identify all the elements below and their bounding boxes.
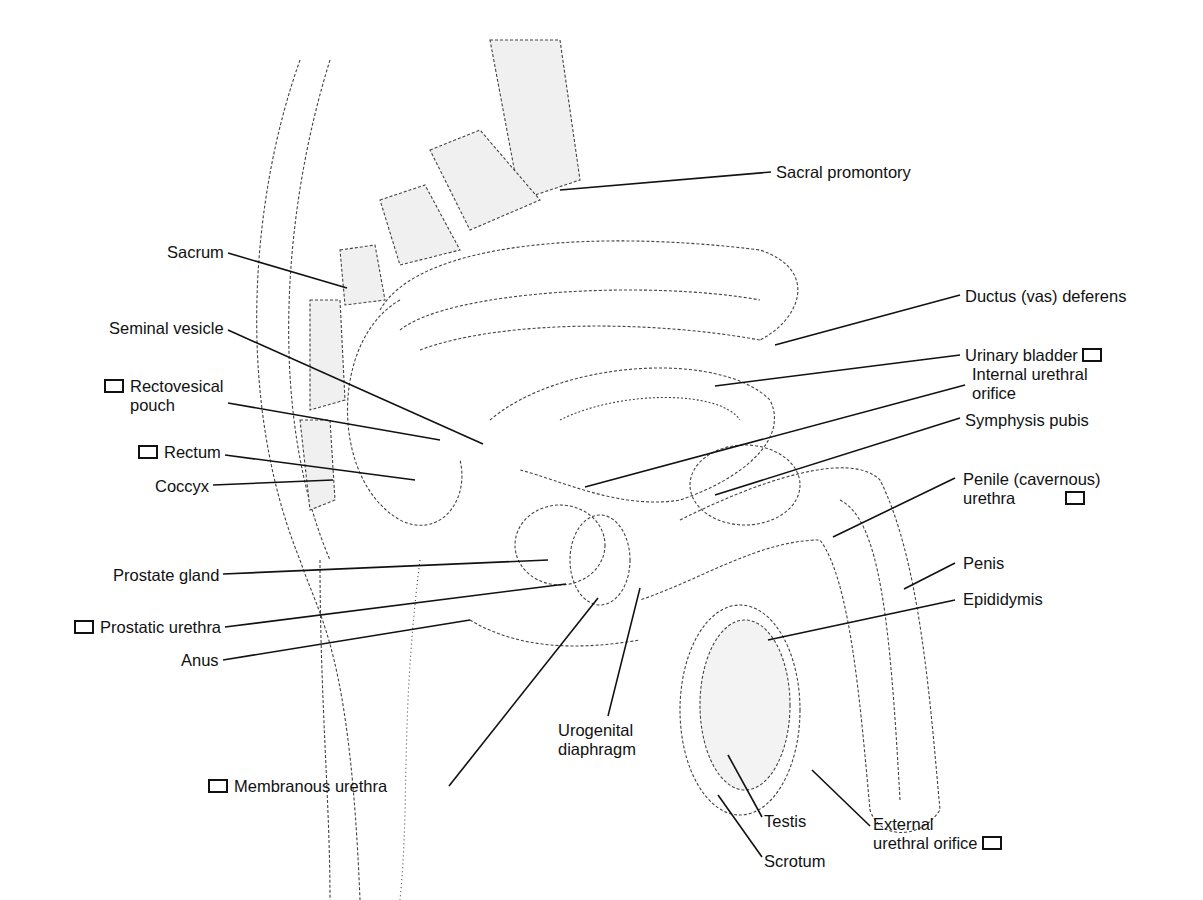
label-penile-urethra: Penile (cavernous)urethra <box>963 470 1101 508</box>
label-rectum: Rectum <box>138 443 221 462</box>
leader-line-penile-urethra <box>833 478 955 537</box>
label-text: Symphysis pubis <box>965 411 1089 429</box>
label-coccyx: Coccyx <box>155 477 209 496</box>
rectovesical-pouch-answer-box[interactable] <box>104 379 124 393</box>
label-anus: Anus <box>181 651 219 670</box>
label-text: urethral orifice <box>873 834 978 852</box>
label-internal-urethral-orifice: Internal urethralorifice <box>972 365 1088 403</box>
label-urogenital-diaphragm: Urogenitaldiaphragm <box>558 721 636 759</box>
leader-line-urinary-bladder <box>715 355 960 386</box>
leader-line-penis <box>904 563 955 589</box>
leader-line-ductus-deferens <box>775 295 960 345</box>
leader-line-internal-urethral-orifice <box>585 385 965 487</box>
external-urethral-orifice-answer-box[interactable] <box>982 836 1002 850</box>
label-text: Prostate gland <box>113 566 219 584</box>
leader-line-urogenital-diaphragm <box>608 588 640 716</box>
label-text: Rectum <box>164 443 221 461</box>
label-epididymis: Epididymis <box>963 590 1043 609</box>
label-text: Membranous urethra <box>234 777 387 795</box>
label-symphysis-pubis: Symphysis pubis <box>965 411 1089 430</box>
label-text: diaphragm <box>558 740 636 758</box>
leader-line-prostate-gland <box>223 560 548 574</box>
label-text: Scrotum <box>764 852 825 870</box>
label-ductus-deferens: Ductus (vas) deferens <box>965 287 1126 306</box>
label-text: Ductus (vas) deferens <box>965 287 1126 305</box>
leader-line-rectovesical-pouch <box>228 403 440 440</box>
leader-line-epididymis <box>768 600 955 640</box>
label-seminal-vesicle: Seminal vesicle <box>109 319 224 338</box>
leader-line-anus <box>223 620 470 660</box>
leader-line-sacrum <box>228 253 347 288</box>
label-external-urethral-orifice: Externalurethral orifice <box>873 815 1002 853</box>
leader-line-symphysis-pubis <box>715 418 960 495</box>
label-text: Penile (cavernous) <box>963 470 1101 488</box>
label-text: Seminal vesicle <box>109 319 224 337</box>
rectum-answer-box[interactable] <box>138 445 158 459</box>
label-text: urethra <box>963 489 1015 507</box>
label-prostatic-urethra: Prostatic urethra <box>74 618 221 637</box>
leader-line-sacral-promontory <box>560 172 771 190</box>
label-text: Epididymis <box>963 590 1043 608</box>
label-text: Urinary bladder <box>965 346 1078 364</box>
leader-line-external-urethral-orifice <box>812 770 870 826</box>
label-urinary-bladder: Urinary bladder <box>965 346 1102 365</box>
label-text: orifice <box>972 384 1016 402</box>
label-text: Rectovesical <box>130 377 224 395</box>
leader-line-seminal-vesicle <box>228 330 483 444</box>
label-text: Penis <box>963 554 1004 572</box>
label-text: pouch <box>130 396 175 414</box>
label-text: Sacrum <box>167 243 224 261</box>
label-text: External <box>873 815 934 833</box>
label-penis: Penis <box>963 554 1004 573</box>
urinary-bladder-answer-box[interactable] <box>1082 348 1102 362</box>
penile-urethra-answer-box[interactable] <box>1065 491 1085 505</box>
label-rectovesical-pouch: Rectovesicalpouch <box>104 377 224 415</box>
label-text: Prostatic urethra <box>100 618 221 636</box>
leader-line-prostatic-urethra <box>225 584 566 627</box>
membranous-urethra-answer-box[interactable] <box>208 779 228 793</box>
label-testis: Testis <box>764 812 806 831</box>
prostatic-urethra-answer-box[interactable] <box>74 620 94 634</box>
label-prostate-gland: Prostate gland <box>113 566 219 585</box>
label-text: Anus <box>181 651 219 669</box>
label-text: Coccyx <box>155 477 209 495</box>
label-text: Sacral promontory <box>776 163 911 181</box>
label-text: Testis <box>764 812 806 830</box>
label-sacrum: Sacrum <box>167 243 224 262</box>
label-sacral-promontory: Sacral promontory <box>776 163 911 182</box>
label-scrotum: Scrotum <box>764 852 825 871</box>
label-membranous-urethra: Membranous urethra <box>208 777 387 796</box>
label-text: Urogenital <box>558 721 633 739</box>
label-text: Internal urethral <box>972 365 1088 383</box>
